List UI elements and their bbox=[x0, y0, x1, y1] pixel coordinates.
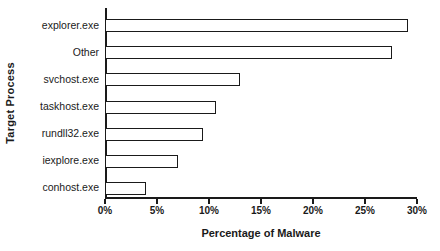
bar-taskhost-exe bbox=[105, 101, 216, 114]
x-tick-15% bbox=[260, 199, 262, 204]
bar-rundll32-exe bbox=[105, 128, 203, 141]
x-tick-label-30%: 30% bbox=[407, 205, 427, 216]
bar-svchost-exe bbox=[105, 73, 240, 86]
y-tick-label-explorer-exe: explorer.exe bbox=[16, 20, 99, 31]
x-tick-20% bbox=[312, 199, 314, 204]
x-tick-label-25%: 25% bbox=[355, 205, 375, 216]
bar-explorer-exe bbox=[105, 19, 408, 32]
x-tick-5% bbox=[156, 199, 158, 204]
x-tick-30% bbox=[416, 199, 418, 204]
x-tick-10% bbox=[208, 199, 210, 204]
y-axis-tick-labels: explorer.exeOthersvchost.exetaskhost.exe… bbox=[20, 8, 103, 198]
x-tick-0% bbox=[104, 199, 106, 204]
x-tick-label-0%: 0% bbox=[98, 205, 112, 216]
x-tick-label-20%: 20% bbox=[303, 205, 323, 216]
x-axis-title: Percentage of Malware bbox=[105, 227, 417, 239]
y-tick-label-iexplore-exe: iexplore.exe bbox=[16, 155, 99, 166]
y-tick-label-Other: Other bbox=[16, 47, 99, 58]
bar-conhost-exe bbox=[105, 182, 146, 195]
x-tick-25% bbox=[364, 199, 366, 204]
bar-chart-figure: Target Process explorer.exeOthersvchost.… bbox=[0, 0, 440, 251]
y-axis-title-label: Target Process bbox=[4, 62, 16, 143]
x-tick-label-10%: 10% bbox=[199, 205, 219, 216]
y-tick-label-svchost-exe: svchost.exe bbox=[16, 74, 99, 85]
x-tick-label-5%: 5% bbox=[150, 205, 164, 216]
y-tick-label-taskhost-exe: taskhost.exe bbox=[16, 101, 99, 112]
plot-area bbox=[105, 8, 417, 198]
bar-Other bbox=[105, 46, 392, 59]
bar-iexplore-exe bbox=[105, 155, 178, 168]
x-tick-label-15%: 15% bbox=[251, 205, 271, 216]
y-tick-label-conhost-exe: conhost.exe bbox=[16, 182, 99, 193]
y-tick-label-rundll32-exe: rundll32.exe bbox=[16, 128, 99, 139]
